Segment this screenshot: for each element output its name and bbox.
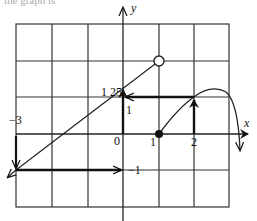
y-axis-label: y (130, 1, 137, 15)
label-neg1: −1 (128, 163, 141, 177)
label-neg3: −3 (9, 113, 22, 127)
filled-dot (155, 130, 163, 138)
label-1-vertical: 1 (126, 103, 132, 117)
open-circle (154, 56, 164, 66)
label-zero: 0 (114, 134, 120, 148)
label-x1: 1 (150, 135, 156, 149)
label-x2: 2 (191, 135, 197, 149)
label-1-25: 1 25 (101, 85, 122, 99)
graph: y x −3 1 25 1 0 1 2 −1 (0, 0, 257, 221)
x-axis-label: x (243, 116, 250, 130)
